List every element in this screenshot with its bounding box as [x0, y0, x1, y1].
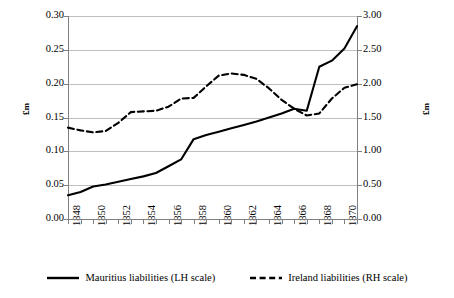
- x-tickmark: [143, 220, 144, 224]
- left-tick-label: 0.20: [46, 78, 64, 89]
- right-tick-label: 2.00: [363, 78, 381, 89]
- left-tick-label: 0.30: [46, 10, 64, 21]
- x-tickmark: [93, 220, 94, 224]
- left-axis-title: £m: [21, 97, 31, 121]
- right-tickmark: [358, 118, 362, 119]
- legend-item-mauritius: Mauritius liabilities (LH scale): [46, 272, 215, 283]
- left-tick-label: 0.15: [46, 112, 64, 123]
- left-tick-label: 0.00: [46, 213, 64, 224]
- right-axis-spine: [357, 16, 358, 220]
- legend-label-mauritius: Mauritius liabilities (LH scale): [85, 272, 215, 283]
- x-tickmark: [118, 220, 119, 224]
- series-line-mauritius: [68, 26, 357, 195]
- x-tickmark: [319, 220, 320, 224]
- series-line-ireland: [68, 74, 357, 133]
- right-tickmark: [358, 50, 362, 51]
- right-tickmark: [358, 16, 362, 17]
- right-tick-label: 0.50: [363, 179, 381, 190]
- right-tick-label: 1.00: [363, 145, 381, 156]
- right-tick-label: 2.50: [363, 44, 381, 55]
- x-tickmark: [206, 220, 207, 224]
- x-tickmark: [81, 220, 82, 224]
- left-tick-label: 0.05: [46, 179, 64, 190]
- legend-label-ireland: Ireland liabilities (RH scale): [288, 272, 407, 283]
- x-tickmark: [231, 220, 232, 224]
- legend-item-ireland: Ireland liabilities (RH scale): [249, 272, 407, 283]
- x-tickmark: [357, 220, 358, 224]
- legend-swatch-dashed-icon: [249, 273, 283, 283]
- right-tickmark: [358, 84, 362, 85]
- right-tickmark: [358, 151, 362, 152]
- x-tickmark: [282, 220, 283, 224]
- x-tickmark: [169, 220, 170, 224]
- x-tickmark: [244, 220, 245, 224]
- right-tickmark: [358, 219, 362, 220]
- x-axis-spine: [68, 219, 358, 220]
- x-tickmark: [131, 220, 132, 224]
- x-tickmark: [106, 220, 107, 224]
- right-tick-label: 3.00: [363, 10, 381, 21]
- left-tick-label: 0.25: [46, 44, 64, 55]
- left-tick-label: 0.10: [46, 145, 64, 156]
- x-tickmark: [256, 220, 257, 224]
- right-tickmark: [358, 185, 362, 186]
- right-tick-label: 1.50: [363, 112, 381, 123]
- x-tickmark: [307, 220, 308, 224]
- x-tickmark: [219, 220, 220, 224]
- x-tickmark: [344, 220, 345, 224]
- x-tickmark: [194, 220, 195, 224]
- x-tickmark: [294, 220, 295, 224]
- x-tickmark: [269, 220, 270, 224]
- line-chart: £m £m 0.000.050.100.150.200.250.30 0.000…: [0, 0, 454, 298]
- legend-swatch-solid-icon: [46, 273, 80, 283]
- right-tick-label: 0.00: [363, 213, 381, 224]
- x-tickmark: [181, 220, 182, 224]
- chart-legend: Mauritius liabilities (LH scale) Ireland…: [0, 272, 454, 283]
- x-tickmark: [68, 220, 69, 224]
- x-tickmark: [156, 220, 157, 224]
- x-tickmark: [332, 220, 333, 224]
- right-axis-title: £m: [421, 97, 431, 121]
- series-lines: [68, 16, 357, 219]
